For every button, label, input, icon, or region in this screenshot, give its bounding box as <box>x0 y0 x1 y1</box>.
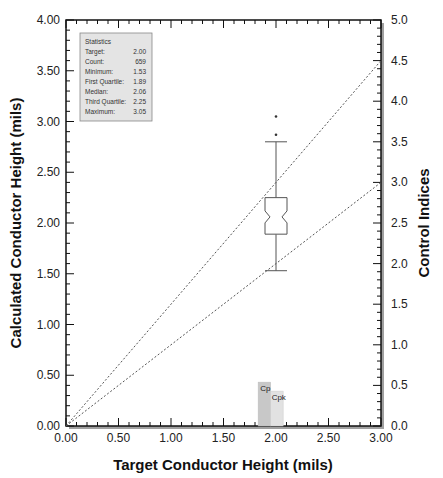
y2-tick-label: 2.5 <box>391 216 408 230</box>
y-tick-label: 1.50 <box>37 267 61 281</box>
y2-tick-label: 0.5 <box>391 378 408 392</box>
y-tick-label: 3.00 <box>37 115 61 129</box>
y2-tick-label: 4.5 <box>391 54 408 68</box>
statistics-label: Third Quartile: <box>85 98 126 106</box>
y-axis-title: Calculated Conductor Height (mils) <box>7 98 24 349</box>
chart: 0.000.501.001.502.002.503.000.000.501.00… <box>0 0 443 478</box>
x-tick-label: 2.00 <box>264 431 288 445</box>
outlier-point <box>275 133 278 136</box>
y2-axis-title: Control Indices <box>415 168 432 277</box>
y-tick-label: 1.00 <box>37 318 61 332</box>
x-axis-title: Target Conductor Height (mils) <box>113 456 333 473</box>
y2-tick-label: 3.0 <box>391 175 408 189</box>
y2-tick-label: 1.5 <box>391 297 408 311</box>
statistics-box: Statistics Target:2.00Count:659Minimum:1… <box>80 33 152 121</box>
statistics-label: Minimum: <box>85 68 113 75</box>
statistics-label: Maximum: <box>85 108 115 115</box>
y2-tick-label: 1.0 <box>391 338 408 352</box>
statistics-label: Count: <box>85 58 104 65</box>
y2-tick-label: 0.0 <box>391 419 408 433</box>
x-tick-label: 0.00 <box>54 431 78 445</box>
statistics-value: 659 <box>135 58 146 65</box>
statistics-value: 3.05 <box>133 108 146 115</box>
cpk-bar-label: Cpk <box>272 393 287 402</box>
y2-tick-label: 2.0 <box>391 257 408 271</box>
statistics-value: 2.06 <box>133 88 146 95</box>
cp-bar-label: Cp <box>260 384 271 393</box>
y-tick-label: 2.00 <box>37 216 61 230</box>
statistics-label: Median: <box>85 88 108 95</box>
y2-tick-label: 4.0 <box>391 94 408 108</box>
y-tick-label: 0.50 <box>37 368 61 382</box>
y-tick-label: 4.00 <box>37 13 61 27</box>
y-tick-label: 0.00 <box>37 419 61 433</box>
x-tick-label: 2.50 <box>317 431 341 445</box>
x-tick-label: 1.50 <box>212 431 236 445</box>
x-tick-label: 0.50 <box>107 431 131 445</box>
x-tick-label: 3.00 <box>369 431 393 445</box>
outlier-point <box>275 115 278 118</box>
y2-tick-label: 3.5 <box>391 135 408 149</box>
x-tick-label: 1.00 <box>159 431 183 445</box>
statistics-value: 1.53 <box>133 68 146 75</box>
y-tick-label: 2.50 <box>37 165 61 179</box>
statistics-label: Target: <box>85 48 105 56</box>
y-tick-label: 3.50 <box>37 64 61 78</box>
statistics-value: 1.89 <box>133 78 146 85</box>
statistics-value: 2.25 <box>133 98 146 105</box>
statistics-label: First Quartile: <box>85 78 124 86</box>
statistics-title: Statistics <box>85 38 112 45</box>
statistics-value: 2.00 <box>133 48 146 55</box>
y2-tick-label: 5.0 <box>391 13 408 27</box>
